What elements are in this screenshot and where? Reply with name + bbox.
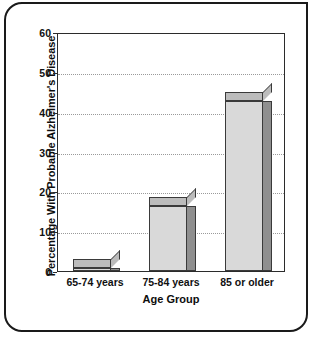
- y-tick-label-50: 50: [25, 68, 51, 78]
- y-tick-label-0: 0: [25, 267, 51, 277]
- plot-area: [57, 33, 285, 272]
- bar-0: [73, 259, 111, 271]
- x-axis-title: Age Group: [57, 293, 285, 305]
- bar-top-bevel-0: [111, 250, 120, 268]
- y-tick-label-40: 40: [25, 108, 51, 118]
- y-tick-mark-0: [53, 272, 57, 273]
- bar-front-face-1: [149, 206, 187, 271]
- bar-front-face-2: [225, 101, 263, 271]
- bar-1: [149, 197, 187, 271]
- bar-side-face-0: [111, 268, 120, 271]
- x-tick-label-2: 85 or older: [207, 276, 287, 288]
- y-tick-label-60: 60: [25, 28, 51, 38]
- bar-top-bevel-1: [187, 188, 196, 206]
- chart-figure: Percentage With Probable Alzheimer's Dis…: [0, 0, 314, 337]
- bar-2: [225, 92, 263, 271]
- bar-top-face-2: [225, 92, 263, 101]
- y-tick-label-10: 10: [25, 227, 51, 237]
- bar-top-bevel-2: [263, 83, 272, 101]
- gridline-50: [58, 74, 284, 75]
- bar-side-face-1: [187, 206, 196, 271]
- x-tick-label-0: 65-74 years: [55, 276, 135, 288]
- bar-front-face-0: [73, 268, 111, 271]
- bar-top-face-1: [149, 197, 187, 206]
- y-tick-label-20: 20: [25, 187, 51, 197]
- bar-side-face-2: [263, 101, 272, 271]
- y-tick-label-30: 30: [25, 148, 51, 158]
- x-tick-label-1: 75-84 years: [131, 276, 211, 288]
- bar-top-face-0: [73, 259, 111, 268]
